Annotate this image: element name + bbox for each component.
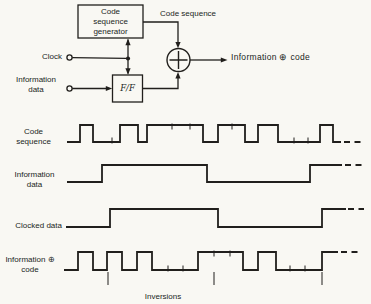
clocked-data-row-label: Clocked data <box>6 221 62 231</box>
generator-box-label-line1: Code <box>78 7 143 17</box>
information-xor-code-output-label: Information ⊕ code <box>231 52 310 62</box>
arrow-into-xor-top-icon <box>175 42 180 48</box>
arrow-down-into-ff-icon <box>125 68 130 75</box>
generator-to-xor-line <box>143 22 178 43</box>
junction-dot <box>126 56 130 60</box>
information-data-row-label: Information data <box>6 170 63 190</box>
information-data-input-label-line1: Information <box>8 75 64 85</box>
ff-to-xor-line <box>143 77 178 89</box>
information-xor-code-waveform <box>64 252 338 270</box>
arrow-into-xor-bottom-icon <box>175 72 180 78</box>
information-data-input-label: Information data <box>8 75 64 95</box>
clocked-data-waveform <box>66 209 346 227</box>
generator-box-label-line3: generator <box>78 27 143 37</box>
ff-box-label: F/F <box>112 83 143 93</box>
information-xor-code-row-label-line1: Information ⊕ <box>0 255 60 265</box>
information-data-input-label-line2: data <box>8 85 64 95</box>
information-data-waveform <box>67 165 342 182</box>
code-sequence-output-label: Code sequence <box>160 9 216 19</box>
information-xor-code-row-label: Information ⊕ code <box>0 255 60 275</box>
information-data-row-label-line2: data <box>6 180 63 190</box>
information-terminal <box>67 86 72 91</box>
code-sequence-row-label-line2: sequence <box>6 137 61 147</box>
plus-icon <box>170 51 188 69</box>
generator-box-label: Code sequence generator <box>78 7 143 37</box>
clock-input-label: Clock <box>28 52 62 62</box>
code-sequence-waveform <box>67 125 341 142</box>
information-data-row-label-line1: Information <box>6 170 63 180</box>
arrow-output-icon <box>221 57 228 62</box>
code-sequence-row-label-line1: Code <box>6 127 61 137</box>
clock-line <box>72 58 126 59</box>
spread-spectrum-figure: Code sequence generator Code sequence In… <box>0 0 371 304</box>
information-xor-code-row-label-line2: code <box>0 265 60 275</box>
code-sequence-row-label: Code sequence <box>6 127 61 147</box>
generator-box-label-line2: sequence <box>78 17 143 27</box>
inversions-label: Inversions <box>133 292 193 302</box>
arrow-up-into-generator-icon <box>125 39 130 46</box>
timing-waveforms <box>64 124 364 286</box>
clock-terminal <box>67 55 72 60</box>
xor-gate <box>167 49 190 72</box>
clocked-data-row-label-line1: Clocked data <box>6 221 62 231</box>
